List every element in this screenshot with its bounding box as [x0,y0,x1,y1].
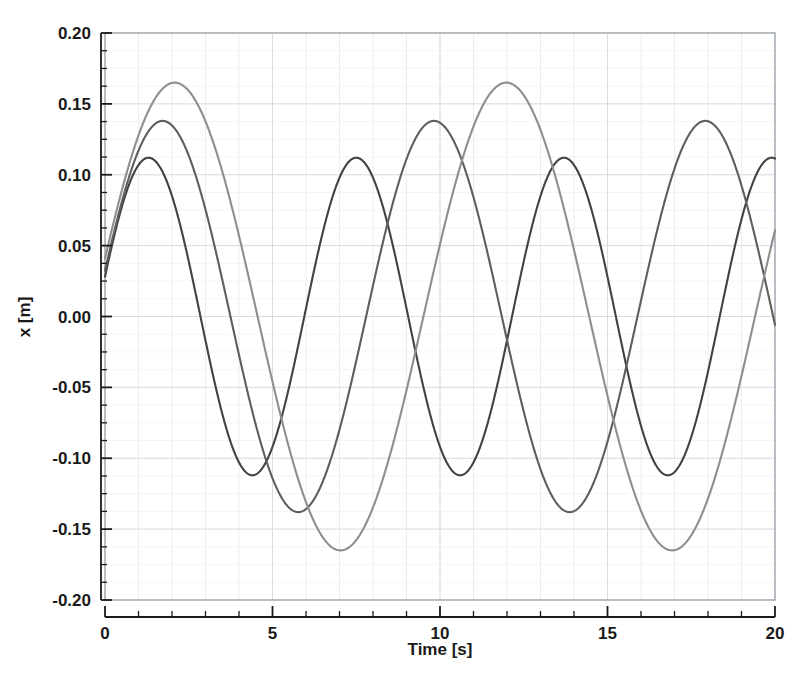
y-tick-label: 0.10 [58,166,91,185]
x-tick-label: 5 [268,624,277,643]
y-tick-label: -0.15 [52,520,91,539]
x-axis-title: Time [s] [408,640,473,659]
figure-container: 05101520 -0.20-0.15-0.10-0.050.000.050.1… [0,0,792,678]
x-tick-label: 15 [598,624,617,643]
x-tick-label: 20 [766,624,785,643]
y-tick-label: 0.15 [58,95,91,114]
y-tick-label: -0.05 [52,378,91,397]
y-tick-label: 0.00 [58,308,91,327]
y-tick-label: 0.05 [58,237,91,256]
y-tick-label: 0.20 [58,24,91,43]
y-axis-tick-labels: -0.20-0.15-0.10-0.050.000.050.100.150.20 [52,24,91,610]
x-tick-label: 0 [100,624,109,643]
oscillation-line-chart: 05101520 -0.20-0.15-0.10-0.050.000.050.1… [0,0,792,678]
y-tick-label: -0.10 [52,449,91,468]
y-axis-title: x [m] [15,297,34,338]
y-tick-label: -0.20 [52,591,91,610]
